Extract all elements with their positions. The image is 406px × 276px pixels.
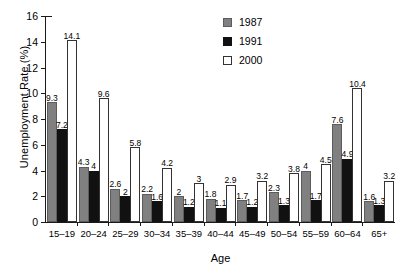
bar-2000-45-49: 3.2 bbox=[257, 181, 267, 222]
y-axis-tick-label: 4 bbox=[32, 165, 38, 177]
bar-value-label: 2.3 bbox=[268, 184, 280, 193]
bar-value-label: 2.9 bbox=[225, 176, 237, 185]
bar-group: 41.74.5 bbox=[300, 16, 332, 222]
bar-1991-30-34: 1.6 bbox=[152, 201, 162, 222]
bar-value-label: 5.8 bbox=[129, 139, 141, 148]
x-axis-tick-label: 30–34 bbox=[141, 228, 173, 242]
x-axis-tick-label: 20–24 bbox=[78, 228, 110, 242]
x-axis-tick-labels: 15–1920–2425–2930–3435–3940–4445–4950–54… bbox=[46, 228, 395, 242]
x-axis-tick-label: 50–54 bbox=[268, 228, 300, 242]
bar-1991-25-29: 2 bbox=[120, 196, 130, 222]
bar-group: 2.31.33.8 bbox=[268, 16, 300, 222]
bar-group: 2.625.8 bbox=[109, 16, 141, 222]
bar-1991-20-24: 4 bbox=[89, 171, 99, 223]
plot-area: 9.37.214.14.349.62.625.82.21.64.221.231.… bbox=[46, 16, 395, 222]
bar-1991-60-64: 4.9 bbox=[342, 159, 352, 222]
bar-2000-40-44: 2.9 bbox=[226, 185, 236, 222]
x-axis-tick-label: 25–29 bbox=[109, 228, 141, 242]
x-axis-tick-label: 15–19 bbox=[46, 228, 78, 242]
bar-2000-60-64: 10.4 bbox=[352, 88, 362, 222]
x-axis-tick-label: 60–64 bbox=[332, 228, 364, 242]
bar-group: 4.349.6 bbox=[78, 16, 110, 222]
legend: 198719912000 bbox=[223, 14, 262, 71]
x-axis-tick-label: 65+ bbox=[363, 228, 395, 242]
unemployment-rate-bar-chart: Unemployment Rate (%) 0246810121416 9.37… bbox=[0, 0, 406, 276]
y-axis-tick-label: 14 bbox=[26, 36, 38, 48]
bar-1987-20-24: 4.3 bbox=[79, 167, 89, 222]
legend-label-1991: 1991 bbox=[239, 35, 262, 47]
bar-2000-65+: 3.2 bbox=[384, 181, 394, 222]
bar-value-label: 9.6 bbox=[98, 90, 110, 99]
bar-value-label: 4 bbox=[303, 162, 308, 171]
legend-item-1991: 1991 bbox=[223, 33, 262, 49]
bar-1991-15-19: 7.2 bbox=[57, 129, 67, 222]
y-axis-tick-mark bbox=[41, 16, 46, 17]
bar-value-label: 4.3 bbox=[78, 158, 90, 167]
bar-value-label: 7.6 bbox=[332, 116, 344, 125]
bar-group: 9.37.214.1 bbox=[46, 16, 78, 222]
x-axis-tick-label: 40–44 bbox=[205, 228, 237, 242]
y-axis-tick-mark bbox=[41, 196, 46, 197]
legend-label-1987: 1987 bbox=[239, 16, 262, 28]
bar-value-label: 3.2 bbox=[383, 172, 395, 181]
x-axis-tick-label: 45–49 bbox=[236, 228, 268, 242]
y-axis-tick-mark bbox=[41, 222, 46, 223]
y-axis-tick-labels: 0246810121416 bbox=[16, 0, 38, 276]
bar-group: 7.64.910.4 bbox=[332, 16, 364, 222]
bar-2000-55-59: 4.5 bbox=[321, 164, 331, 222]
y-axis-tick-label: 12 bbox=[26, 62, 38, 74]
y-axis-tick-mark bbox=[41, 119, 46, 120]
bar-1991-50-54: 1.3 bbox=[279, 205, 289, 222]
x-axis-title: Age bbox=[46, 252, 395, 264]
x-axis-baseline bbox=[45, 222, 395, 223]
bar-value-label: 3.8 bbox=[288, 165, 300, 174]
bar-2000-35-39: 3 bbox=[194, 183, 204, 222]
legend-swatch-1991 bbox=[223, 37, 232, 46]
bar-group: 21.23 bbox=[173, 16, 205, 222]
legend-swatch-1987 bbox=[223, 18, 232, 27]
y-axis-tick-label: 2 bbox=[32, 190, 38, 202]
x-axis-tick-label: 35–39 bbox=[173, 228, 205, 242]
y-axis-tick-mark bbox=[41, 145, 46, 146]
y-axis-tick-mark bbox=[41, 171, 46, 172]
legend-label-2000: 2000 bbox=[239, 54, 262, 66]
y-axis-tick-label: 10 bbox=[26, 87, 38, 99]
y-axis-tick-label: 6 bbox=[32, 139, 38, 151]
bar-1987-25-29: 2.6 bbox=[110, 189, 120, 222]
bar-group: 2.21.64.2 bbox=[141, 16, 173, 222]
bar-value-label: 2 bbox=[123, 188, 128, 197]
bar-1987-60-64: 7.6 bbox=[332, 124, 342, 222]
bar-1991-45-49: 1.2 bbox=[247, 207, 257, 222]
bar-group: 1.61.33.2 bbox=[363, 16, 395, 222]
bar-2000-30-34: 4.2 bbox=[162, 168, 172, 222]
y-axis-tick-mark bbox=[41, 42, 46, 43]
bar-value-label: 3 bbox=[196, 175, 201, 184]
y-axis-tick-label: 0 bbox=[32, 216, 38, 228]
legend-swatch-2000 bbox=[223, 56, 232, 65]
bar-1991-35-39: 1.2 bbox=[184, 207, 194, 222]
bar-value-label: 2 bbox=[176, 188, 181, 197]
bar-2000-50-54: 3.8 bbox=[289, 173, 299, 222]
y-axis-tick-mark bbox=[41, 68, 46, 69]
bar-2000-15-19: 14.1 bbox=[67, 40, 77, 222]
y-axis-tick-label: 8 bbox=[32, 113, 38, 125]
bar-value-label: 4 bbox=[91, 162, 96, 171]
bar-value-label: 4.2 bbox=[161, 159, 173, 168]
bar-value-label: 4.5 bbox=[320, 156, 332, 165]
bar-1991-40-44: 1.1 bbox=[216, 208, 226, 222]
bar-2000-25-29: 5.8 bbox=[130, 147, 140, 222]
bar-1991-65+: 1.3 bbox=[374, 205, 384, 222]
bar-2000-20-24: 9.6 bbox=[99, 98, 109, 222]
y-axis-tick-mark bbox=[41, 93, 46, 94]
legend-item-2000: 2000 bbox=[223, 52, 262, 68]
y-axis-tick-label: 16 bbox=[26, 10, 38, 22]
legend-item-1987: 1987 bbox=[223, 14, 262, 30]
bar-1991-55-59: 1.7 bbox=[311, 200, 321, 222]
bar-value-label: 2.6 bbox=[109, 180, 121, 189]
x-axis-tick-label: 55–59 bbox=[300, 228, 332, 242]
bar-value-label: 3.2 bbox=[256, 172, 268, 181]
bar-value-label: 9.3 bbox=[46, 94, 58, 103]
